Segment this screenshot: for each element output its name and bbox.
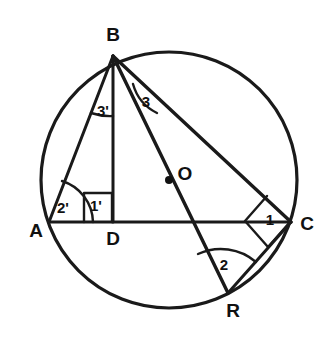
geometry-canvas: B A C D R O 3' 3 2' 1' 1 2: [0, 0, 330, 342]
vertex-label-B: B: [106, 24, 120, 45]
geometry-diagram: B A C D R O 3' 3 2' 1' 1 2: [0, 0, 330, 342]
vertex-label-C: C: [300, 213, 314, 234]
angle-label-1-prime: 1': [90, 197, 102, 214]
angle-label-3-prime: 3': [97, 102, 109, 119]
vertex-label-R: R: [226, 300, 240, 321]
segment-BC: [113, 56, 291, 222]
angle-label-1: 1: [266, 211, 274, 228]
vertex-label-O: O: [178, 163, 193, 184]
center-point-dot: [165, 176, 173, 184]
angle-label-2: 2: [220, 256, 228, 273]
vertex-label-A: A: [29, 220, 43, 241]
segment-AB: [49, 56, 113, 222]
angle-label-3: 3: [142, 93, 150, 110]
segment-BR: [113, 56, 228, 293]
vertex-label-D: D: [106, 228, 120, 249]
angle-label-2-prime: 2': [57, 199, 69, 216]
